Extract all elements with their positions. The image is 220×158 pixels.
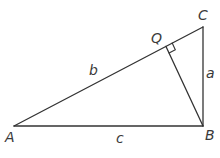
side-label-b: b	[89, 62, 98, 78]
vertex-label-B: B	[205, 127, 215, 143]
vertex-label-A: A	[4, 129, 15, 145]
side-b-AC	[14, 27, 203, 126]
side-label-a: a	[206, 65, 215, 81]
vertex-label-Q: Q	[151, 30, 162, 46]
altitude-BQ	[166, 46, 203, 126]
vertex-label-C: C	[198, 7, 208, 23]
triangle-diagram: A B C Q a b c	[0, 0, 220, 158]
side-label-c: c	[116, 130, 124, 146]
